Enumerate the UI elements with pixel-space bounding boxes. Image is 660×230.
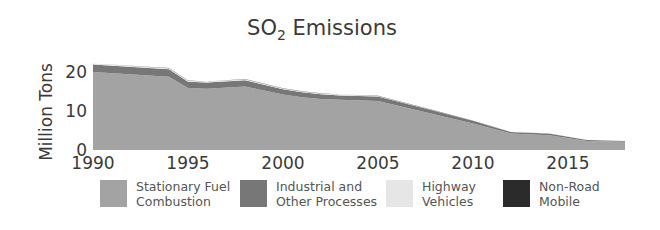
legend-item-highway: Highway Vehicles bbox=[386, 179, 503, 209]
legend: Stationary Fuel Combustion Industrial an… bbox=[100, 179, 600, 209]
chart-title: SO2 Emissions bbox=[247, 16, 397, 43]
legend-item-industrial: Industrial and Other Processes bbox=[240, 179, 386, 209]
legend-item-nonroad: Non-Road Mobile bbox=[503, 179, 600, 209]
legend-swatch-highway bbox=[386, 180, 413, 207]
x-tick-label: 1995 bbox=[166, 153, 209, 173]
so2-emissions-chart: SO2 Emissions Million Tons 01020 1990199… bbox=[0, 0, 660, 180]
x-axis-ticks: 199019952000200520102015 bbox=[71, 153, 589, 173]
area-stationary-fuel-combustion bbox=[93, 72, 625, 150]
legend-swatch-nonroad bbox=[503, 180, 530, 207]
y-tick-label: 20 bbox=[65, 62, 87, 82]
x-tick-label: 2005 bbox=[356, 153, 399, 173]
x-tick-label: 1990 bbox=[71, 153, 114, 173]
y-axis-label: Million Tons bbox=[36, 63, 56, 161]
x-tick-label: 2000 bbox=[261, 153, 304, 173]
stacked-areas bbox=[93, 63, 625, 150]
y-tick-label: 10 bbox=[65, 101, 87, 121]
x-tick-label: 2015 bbox=[546, 153, 589, 173]
x-tick-label: 2010 bbox=[451, 153, 494, 173]
legend-item-stationary-fuel: Stationary Fuel Combustion bbox=[100, 179, 240, 209]
legend-swatch-industrial bbox=[240, 180, 267, 207]
legend-swatch-stationary bbox=[100, 180, 127, 207]
y-axis-ticks: 01020 bbox=[65, 62, 87, 160]
